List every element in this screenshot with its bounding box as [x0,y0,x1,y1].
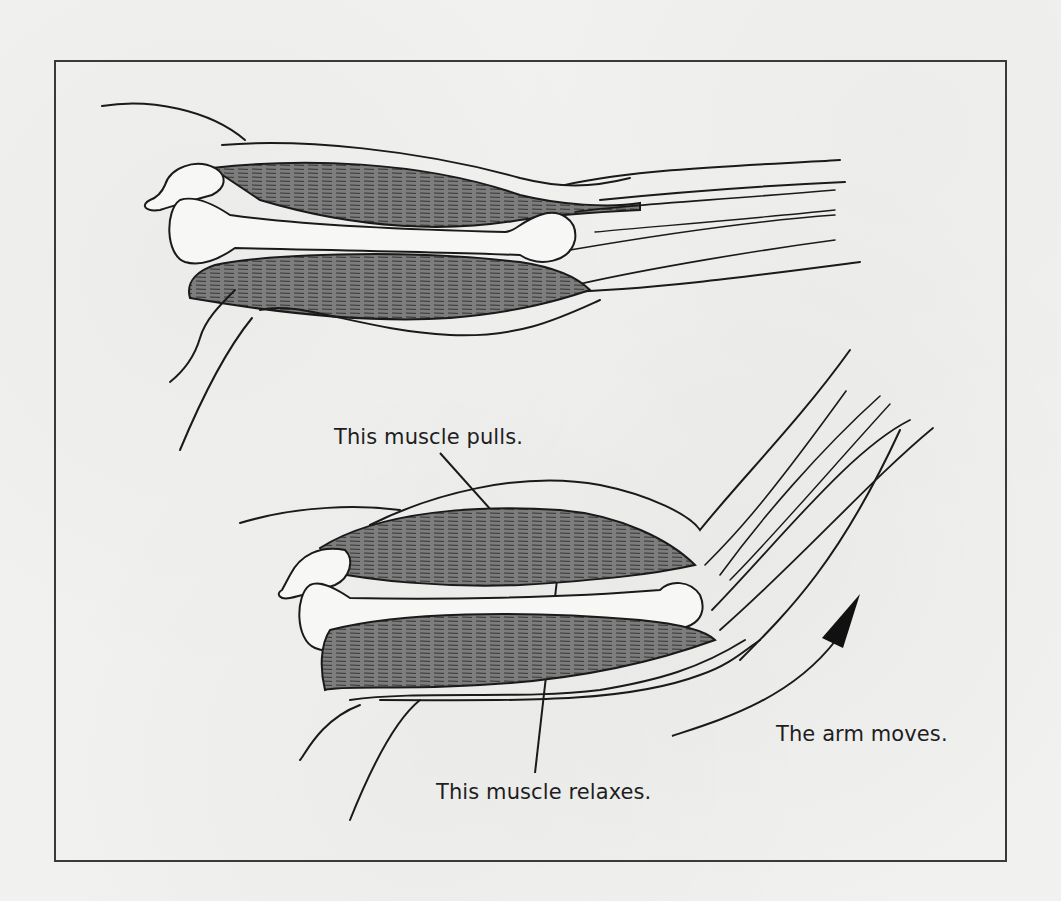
label-arm-moves: The arm moves. [776,722,948,746]
arm-straight-drawing [102,104,860,450]
label-muscle-relaxes: This muscle relaxes. [436,780,651,804]
arm-bent-drawing [240,350,933,820]
label-muscle-pulls: This muscle pulls. [334,425,523,449]
arm-illustration [0,0,1061,901]
